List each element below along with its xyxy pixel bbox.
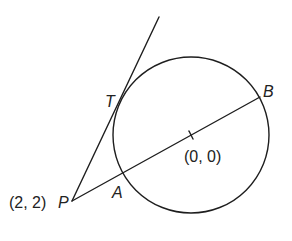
label-center-coord: (0, 0) [184, 148, 221, 165]
geometry-diagram: T B A (0, 0) (2, 2) P [0, 0, 292, 241]
secant-line-PAB [72, 97, 260, 201]
label-A: A [111, 184, 123, 201]
tangent-line-PT [72, 17, 159, 201]
label-B: B [263, 83, 274, 100]
label-P: P [58, 194, 69, 211]
label-T: T [105, 93, 116, 110]
label-P-coord: (2, 2) [9, 194, 46, 211]
